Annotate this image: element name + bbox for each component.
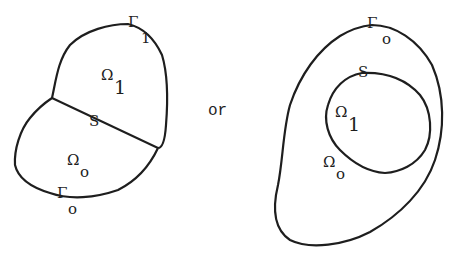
left-gamma-o-subscript: o — [68, 202, 77, 217]
subscript: o — [336, 165, 345, 183]
omega-symbol: Ω — [67, 151, 79, 169]
right-outer-boundary — [275, 25, 442, 245]
right-interface-s — [326, 73, 430, 173]
omega-symbol: Ω — [323, 153, 335, 171]
omega-symbol: Ω — [335, 103, 347, 121]
gamma-symbol: Γ — [128, 13, 138, 31]
subscript: 1 — [348, 113, 360, 135]
or-text: or — [208, 102, 227, 120]
right-omega-o-label: Ω — [323, 155, 335, 170]
right-omega-o-subscript: o — [336, 167, 345, 182]
left-outer-boundary — [15, 24, 167, 197]
right-omega-1-label: Ω — [335, 105, 347, 120]
left-omega-1-label: Ω — [101, 68, 113, 83]
subscript: o — [68, 200, 77, 218]
left-interface-s — [52, 98, 158, 148]
subscript: o — [80, 163, 89, 181]
subscript: o — [382, 30, 391, 48]
right-omega-1-subscript: 1 — [348, 115, 360, 134]
gamma-symbol: Γ — [367, 14, 377, 32]
s-label: S — [358, 63, 368, 81]
right-interface-s-label: S — [358, 65, 368, 80]
left-omega-o-label: Ω — [67, 153, 79, 168]
connector-or: or — [208, 103, 227, 119]
subscript: 1 — [141, 29, 151, 47]
left-gamma-o-label: Γ — [57, 186, 67, 201]
gamma-symbol: Γ — [57, 184, 67, 202]
left-interface-s-label: S — [89, 114, 99, 129]
right-gamma-o-label: Γ — [367, 16, 377, 31]
s-label: S — [89, 112, 99, 130]
left-omega-1-subscript: 1 — [114, 78, 126, 97]
omega-symbol: Ω — [101, 66, 113, 84]
left-omega-o-subscript: o — [80, 165, 89, 180]
left-gamma-1-subscript: 1 — [141, 31, 151, 46]
diagram-canvas: Γ 1 Ω 1 S Ω o Γ o or Γ o S Ω 1 Ω — [0, 0, 461, 255]
left-gamma-1-label: Γ — [128, 15, 138, 30]
subscript: 1 — [114, 76, 126, 98]
right-gamma-o-subscript: o — [382, 32, 391, 47]
